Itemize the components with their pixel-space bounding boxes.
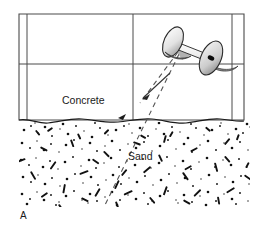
- sand-grain-dot: [143, 192, 145, 194]
- sand-grain-dot: [81, 148, 82, 149]
- sand-grain-streak: [58, 204, 64, 211]
- sand-grain-streak: [143, 166, 151, 173]
- sand-grain-dot: [104, 196, 105, 197]
- sand-grain-dot: [177, 202, 178, 203]
- sand-grain-dot: [62, 123, 65, 126]
- sand-grain-streak: [224, 138, 230, 145]
- sand-grain-dot: [36, 140, 37, 141]
- sand-grain-dot: [127, 194, 128, 195]
- sand-grain-dot: [94, 122, 96, 124]
- sand-grain-dot: [112, 174, 115, 177]
- sand-grain-dot: [82, 182, 83, 183]
- sand-grain-streak: [169, 131, 174, 137]
- sand-grain-dot: [95, 167, 97, 169]
- sand-grain-streak: [50, 161, 57, 170]
- sand-grain-dot: [128, 123, 129, 124]
- sand-grain-dot: [105, 179, 106, 180]
- sand-grain-dot: [182, 160, 185, 163]
- sand-grain-streak: [236, 134, 240, 140]
- sand-grain-dot: [215, 149, 217, 151]
- sand-grain-dot: [174, 165, 175, 166]
- sand-grain-dot: [43, 199, 46, 202]
- sand-grain-streak: [205, 127, 211, 132]
- sand-grain-dot: [50, 194, 52, 196]
- sand-grain-dot: [58, 151, 59, 152]
- sand-grain-dot: [207, 140, 210, 143]
- sand-grain-dot: [183, 194, 186, 197]
- sand-label: Sand: [128, 150, 153, 162]
- sand-grain-streak: [30, 171, 36, 180]
- sand-grain-dot: [99, 127, 101, 129]
- sand-grain-streak: [190, 147, 198, 152]
- sand-grain-dot: [238, 158, 240, 160]
- sand-grain-dot: [207, 191, 210, 194]
- sand-grain-dot: [67, 133, 70, 136]
- sand-grain-dot: [87, 202, 88, 203]
- figure-panel-a: Concrete Sand A: [0, 0, 261, 233]
- sand-grain-dot: [103, 162, 104, 163]
- sand-grain-streak: [35, 130, 40, 136]
- sand-grain-dot: [152, 184, 153, 185]
- sand-grain-dot: [49, 160, 51, 162]
- sand-grain-dot: [190, 123, 192, 125]
- sand-grain-dot: [44, 183, 47, 186]
- sand-grain-dot: [28, 164, 30, 166]
- sand-grain-dot: [249, 126, 250, 127]
- sand-grain-streak: [244, 174, 251, 180]
- sand-grain-dot: [120, 183, 122, 185]
- sand-grain-streak: [163, 135, 167, 143]
- sand-grain-dot: [240, 175, 242, 177]
- sand-grain-dot: [65, 144, 68, 147]
- sand-grain-streak: [18, 158, 26, 162]
- sand-grain-dot: [208, 174, 211, 177]
- sand-grain-dot: [51, 135, 53, 137]
- sand-grain-dot: [158, 122, 161, 125]
- sand-grain-streak: [183, 199, 191, 205]
- sand-grain-dot: [66, 178, 69, 181]
- sand-grain-dot: [167, 139, 169, 141]
- sand-grain-dot: [163, 133, 166, 136]
- sand-grain-streak: [149, 197, 155, 204]
- sand-grain-dot: [222, 159, 223, 160]
- sand-grain-dot: [96, 200, 98, 202]
- sand-grain-dot: [230, 164, 233, 167]
- sand-grain-dot: [192, 185, 194, 187]
- sand-grain-dot: [195, 127, 197, 129]
- sand-grain-streak: [62, 184, 65, 193]
- sand-grain-dot: [231, 198, 234, 201]
- sand-grain-dot: [74, 173, 76, 175]
- sand-grain-streak: [47, 127, 53, 132]
- sand-grain-streak: [226, 187, 235, 194]
- sand-grain-dot: [176, 182, 177, 183]
- sand-grain-dot: [248, 183, 249, 184]
- sand-grain-dot: [143, 141, 145, 143]
- sand-grain-dot: [198, 161, 199, 162]
- sand-grain-dot: [21, 142, 24, 145]
- sand-grain-dot: [110, 157, 113, 160]
- sand-grain-dot: [135, 147, 138, 150]
- sand-grain-dot: [29, 198, 31, 200]
- sand-grain-streak: [217, 197, 220, 205]
- sand-grain-dot: [119, 149, 121, 151]
- sand-grain-dot: [73, 190, 75, 192]
- sand-grain-dot: [247, 149, 248, 150]
- sand-grain-dot: [118, 166, 120, 168]
- sand-grain-dot: [206, 157, 209, 160]
- sand-grain-dot: [64, 161, 67, 164]
- sand-grain-streak: [104, 129, 110, 135]
- sand-grain-dot: [80, 165, 81, 166]
- sand-grain-dot: [119, 199, 121, 201]
- sand-grain-dot: [42, 166, 45, 169]
- sand-grain-dot: [50, 143, 52, 145]
- sand-grain-dot: [97, 184, 99, 186]
- sand-grain-dot: [26, 203, 29, 206]
- sand-grain-streak: [224, 156, 231, 163]
- sand-grain-dot: [216, 183, 218, 185]
- sand-grain-dot: [235, 128, 238, 131]
- sand-grain-streak: [92, 158, 99, 164]
- sand-grain-dot: [158, 162, 161, 165]
- sand-grain-dot: [190, 168, 192, 170]
- sand-grain-dot: [59, 185, 60, 186]
- sand-grain-dot: [166, 156, 168, 158]
- sand-grain-dot: [144, 175, 146, 177]
